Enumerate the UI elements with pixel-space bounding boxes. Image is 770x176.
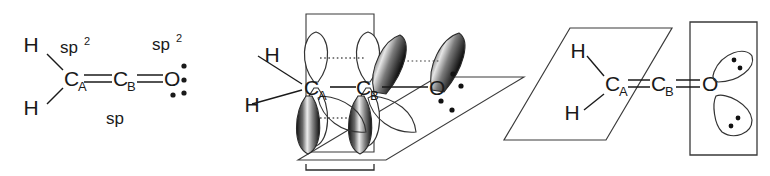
lone-pair-dot: [738, 66, 743, 71]
p-orbital-lobe-open-ca-up: [304, 32, 327, 82]
panel-perpendicular-planes: H H C A C B O: [504, 22, 757, 155]
orbital-cb-subscript: B: [370, 88, 379, 103]
orbital-ca: C: [304, 76, 319, 99]
figure-canvas: H H C A C B O sp 2 sp 2 sp: [0, 0, 770, 176]
lewis-o: O: [164, 67, 180, 90]
lone-pair-dot: [732, 58, 737, 63]
lewis-h-top: H: [23, 33, 38, 56]
lone-pair-dot: [181, 63, 186, 68]
planes-o: O: [702, 72, 718, 95]
lone-pair-dot: [458, 83, 463, 88]
lewis-hyb-o: sp: [152, 35, 170, 54]
lewis-ca-subscript: A: [78, 79, 87, 94]
lone-pair-dot: [170, 92, 175, 97]
lone-pair-dot: [181, 90, 186, 95]
plane-ch2-parallelogram: [504, 28, 672, 140]
planes-h-top: H: [570, 39, 585, 62]
lone-pair-dot: [449, 107, 454, 112]
bond-h-top-ca-planes: [587, 56, 604, 76]
planes-cb: C: [651, 72, 666, 95]
lone-pair-dot: [438, 98, 443, 103]
planes-cb-subscript: B: [665, 84, 674, 99]
bracket-lower: [306, 164, 374, 170]
lone-pair-dot: [729, 124, 734, 129]
orbital-cb: C: [356, 76, 371, 99]
lewis-hyb-cb: sp: [106, 109, 124, 128]
panel-lewis-structure: H H C A C B O sp 2 sp 2 sp: [23, 32, 186, 128]
lone-pair-dot: [181, 77, 186, 82]
planes-h-bottom: H: [564, 101, 579, 124]
lone-pair-dot: [736, 116, 741, 121]
lewis-hyb-ca: sp: [60, 38, 78, 57]
plane-o-rectangle: [690, 22, 757, 155]
orbital-diagram-svg: H H C A C B O sp 2 sp 2 sp: [0, 0, 770, 176]
orbital-h-bottom: H: [244, 93, 259, 116]
lewis-hyb-o-exponent: 2: [176, 32, 182, 44]
lewis-h-bottom: H: [23, 96, 38, 119]
bond-h-bottom-ca: [47, 88, 63, 104]
orbital-o: O: [429, 76, 445, 99]
panel-orbital-overlap: H H C A C B O: [244, 14, 524, 170]
lewis-cb: C: [113, 67, 128, 90]
planes-ca-subscript: A: [619, 84, 628, 99]
o-lone-pair-orbital-upper: [713, 51, 753, 82]
lone-pair-dot: [450, 71, 455, 76]
p-orbital-lobe-shaded-ca-down: [297, 96, 320, 154]
o-lone-pair-orbital-lower: [714, 95, 752, 135]
planes-ca: C: [605, 72, 620, 95]
orbital-h-top: H: [264, 43, 279, 66]
orbital-ca-subscript: A: [318, 88, 327, 103]
bond-h-bottom-ca-planes: [584, 94, 604, 110]
lewis-ca: C: [64, 67, 79, 90]
lewis-hyb-ca-exponent: 2: [84, 35, 90, 47]
lewis-cb-subscript: B: [127, 79, 136, 94]
